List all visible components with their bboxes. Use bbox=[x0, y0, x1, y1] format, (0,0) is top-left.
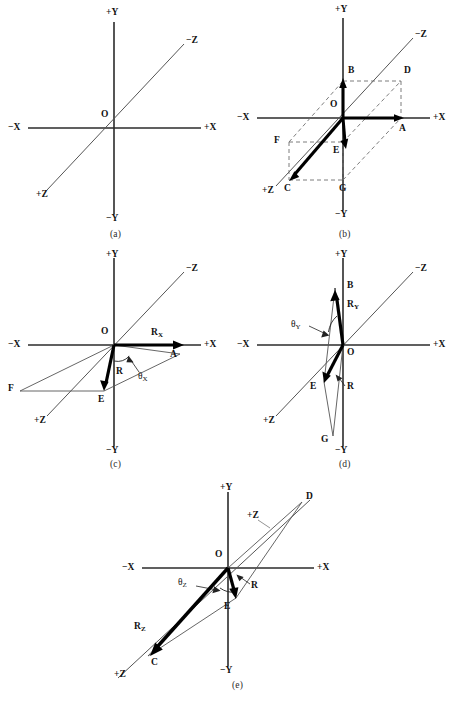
point-label-b: B bbox=[347, 281, 353, 291]
axis-label-z-pos: +Z bbox=[263, 416, 275, 426]
axis-label-x-neg: −X bbox=[8, 123, 20, 133]
panel-e: +Y −Y +X −X D +Z O θZ R E RZ C +Z (e) bbox=[114, 480, 374, 713]
axis-label-x-pos: +X bbox=[317, 563, 329, 573]
point-label-a: A bbox=[399, 124, 406, 134]
vector-label-Ry-base: R bbox=[347, 299, 354, 309]
vector-label-Rx-base: R bbox=[151, 327, 158, 337]
arrowhead-B bbox=[339, 78, 347, 88]
axis-label-z-neg: −Z bbox=[186, 264, 198, 274]
angle-label-theta-y: θY bbox=[291, 320, 301, 331]
axis-label-z-pos: +Z bbox=[262, 186, 274, 196]
axis-label-y-pos: +Y bbox=[220, 483, 232, 493]
vector-label-Rz-base: R bbox=[134, 621, 141, 631]
axis-label-y-neg: −Y bbox=[220, 666, 232, 676]
axis-label-y-pos: +Y bbox=[335, 250, 347, 260]
axis-label-y-pos: +Y bbox=[106, 250, 118, 260]
point-label-f: F bbox=[274, 136, 280, 146]
axis-label-z-pos: +Z bbox=[36, 190, 48, 200]
angle-label-theta-z: θZ bbox=[178, 578, 187, 589]
axis-label-z-neg: −Z bbox=[415, 264, 427, 274]
point-label-c: C bbox=[284, 184, 291, 194]
axis-label-x-pos: +X bbox=[433, 113, 445, 123]
panel-c: +Y −Y +X −X −Z +Z O RX A F E R θX (c) bbox=[0, 250, 229, 480]
z-axis bbox=[47, 44, 184, 190]
axis-label-y-neg: −Y bbox=[335, 446, 347, 456]
point-label-d: D bbox=[404, 66, 411, 76]
axis-label-z-pos-leader: +Z bbox=[247, 511, 259, 521]
panel-caption-e: (e) bbox=[232, 680, 243, 690]
panel-caption-c: (c) bbox=[110, 459, 121, 469]
point-label-g: G bbox=[339, 184, 346, 194]
vector-label-Ry: RY bbox=[347, 300, 359, 311]
axis-label-y-pos: +Y bbox=[335, 5, 347, 15]
point-label-c: C bbox=[151, 658, 158, 668]
angle-arrowhead bbox=[126, 356, 133, 363]
axis-label-y-neg: −Y bbox=[106, 214, 118, 224]
vector-OE bbox=[343, 118, 345, 142]
point-label-d: D bbox=[306, 492, 313, 502]
point-label-a: A bbox=[170, 350, 177, 360]
vector-label-Rx: RX bbox=[151, 328, 163, 339]
z-axis bbox=[276, 272, 413, 416]
axis-label-z-pos: +Z bbox=[34, 416, 46, 426]
point-label-e: E bbox=[98, 395, 104, 405]
panel-caption-a: (a) bbox=[110, 229, 121, 239]
vector-label-R: R bbox=[347, 382, 354, 392]
angle-label-theta-z-sub: Z bbox=[183, 581, 187, 589]
point-label-g: G bbox=[321, 435, 328, 445]
angle-label-theta-x-sub: X bbox=[143, 375, 148, 383]
axis-label-z-neg: −Z bbox=[186, 36, 198, 46]
origin-label: O bbox=[215, 550, 222, 560]
point-label-e: E bbox=[333, 146, 339, 156]
panel-d-graphic bbox=[229, 250, 458, 462]
vector-Ry bbox=[337, 300, 343, 345]
axis-label-x-pos: +X bbox=[204, 123, 216, 133]
vector-label-Ry-sub: Y bbox=[354, 303, 359, 311]
axis-label-z-pos: +Z bbox=[114, 670, 126, 680]
panel-caption-d: (d) bbox=[339, 459, 351, 469]
axis-label-x-neg: −X bbox=[237, 340, 249, 350]
vector-R bbox=[106, 345, 114, 383]
axis-label-x-neg: −X bbox=[122, 563, 134, 573]
arrowhead-E bbox=[340, 139, 348, 149]
arrowhead-A bbox=[394, 114, 404, 122]
vector-label-R: R bbox=[251, 581, 258, 591]
point-label-f: F bbox=[8, 384, 14, 394]
angle-label-theta-y-sub: Y bbox=[296, 323, 301, 331]
axis-label-x-pos: +X bbox=[204, 340, 216, 350]
axis-label-x-pos: +X bbox=[433, 340, 445, 350]
angle-arc-theta-x bbox=[114, 356, 129, 361]
point-label-e: E bbox=[224, 602, 230, 612]
point-label-e: E bbox=[310, 382, 316, 392]
arrowhead-Ry bbox=[330, 290, 339, 301]
point-label-b: B bbox=[348, 66, 354, 76]
axis-label-z-neg: −Z bbox=[415, 30, 427, 40]
origin-label: O bbox=[330, 100, 337, 110]
origin-label: O bbox=[101, 327, 108, 337]
z-pos-leader bbox=[258, 520, 270, 528]
origin-label: O bbox=[101, 110, 108, 120]
angle-label-theta-x: θX bbox=[138, 372, 148, 383]
panel-b: +Y −Y +X −X −Z +Z O B D A F E C G (b) bbox=[229, 0, 458, 250]
axis-label-x-neg: −X bbox=[237, 113, 249, 123]
vector-arrows bbox=[289, 78, 404, 181]
projection-plane-OFEA bbox=[20, 345, 180, 391]
panel-d: +Y −Y +X −X −Z +Z O B RY θY E R G (d) bbox=[229, 250, 458, 480]
axis-label-y-neg: −Y bbox=[106, 446, 118, 456]
origin-label: O bbox=[347, 348, 354, 358]
vector-label-R: R bbox=[116, 367, 123, 377]
axis-label-y-neg: −Y bbox=[335, 210, 347, 220]
axis-label-x-neg: −X bbox=[8, 340, 20, 350]
panel-caption-b: (b) bbox=[339, 229, 351, 239]
vector-label-Rx-sub: X bbox=[158, 331, 163, 339]
vector-label-Rz: RZ bbox=[134, 622, 146, 633]
panel-c-graphic bbox=[0, 250, 229, 462]
vector-Rz bbox=[158, 568, 228, 646]
panel-a: +Y −Y +X −X −Z +Z O (a) bbox=[0, 0, 229, 250]
R-leader-arrowhead bbox=[236, 574, 243, 581]
axis-label-y-pos: +Y bbox=[106, 8, 118, 18]
R-leader-arrowhead bbox=[336, 374, 343, 381]
vector-label-Rz-sub: Z bbox=[141, 625, 146, 633]
